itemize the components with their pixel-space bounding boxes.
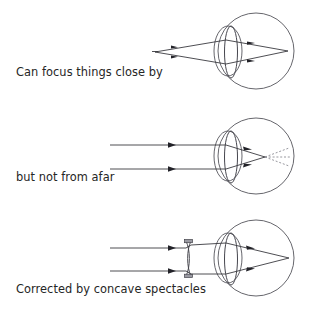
arrow-head-incoming-upper — [168, 245, 176, 250]
caption-panel-near-vision: Can focus things close by — [16, 65, 163, 79]
panel-near-vision: Can focus things close by — [16, 13, 294, 89]
spectacle-lens-bottom-cap — [185, 274, 193, 277]
arrow-head-incoming-lower — [168, 268, 176, 273]
ray-upper — [155, 40, 288, 52]
arrow-head-refracted-lower — [246, 267, 255, 271]
dashed-ray-upper — [265, 148, 289, 157]
arrow-head-converging-lower — [243, 163, 252, 167]
eye-ray-diagram-figure: Can focus things close by but not from a… — [0, 0, 311, 313]
ray-lower — [155, 51, 288, 64]
arrow-head-incoming-upper — [168, 142, 176, 147]
crystalline-lens — [225, 233, 238, 285]
crystalline-lens — [225, 131, 238, 183]
ray-upper — [110, 243, 289, 258]
arrow-head-converging-upper — [243, 147, 252, 151]
panel-distant-vision: but not from afar — [16, 118, 294, 194]
caption-panel-corrected-vision: Corrected by concave spectacles — [16, 282, 206, 296]
dashed-ray-lower — [265, 157, 289, 166]
arrow-head-refracted-lower — [247, 59, 255, 62]
panel-corrected-vision: Corrected by concave spectacles — [16, 220, 294, 296]
ray-lower — [110, 258, 289, 274]
crystalline-lens — [225, 26, 238, 78]
arrow-head-incoming-lower — [168, 166, 176, 171]
spectacle-lens-top-cap — [185, 240, 193, 243]
caption-panel-distant-vision: but not from afar — [16, 170, 115, 184]
